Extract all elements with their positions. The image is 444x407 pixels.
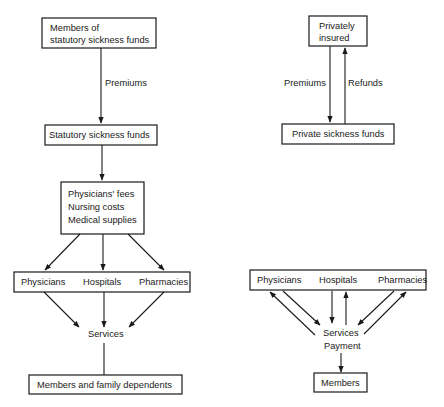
statutory-premiums-label: Premiums xyxy=(105,78,147,88)
pharmacies-to-services-arrow-private xyxy=(358,291,394,325)
privately-insured-line1: Privately xyxy=(319,21,355,31)
private-premiums-label: Premiums xyxy=(284,78,326,88)
statutory-funds-label: Statutory sickness funds xyxy=(49,130,150,140)
private-provider-hospitals: Hospitals xyxy=(319,275,358,285)
pharmacies-to-services-arrow xyxy=(129,292,164,327)
provider-physicians: Physicians xyxy=(21,277,66,287)
physicians-to-services-arrow xyxy=(44,292,79,327)
statutory-system: Members of statutory sickness funds Prem… xyxy=(14,18,190,394)
physicians-to-services-arrow-private xyxy=(283,291,320,325)
private-funds-label: Private sickness funds xyxy=(292,129,385,139)
costs-to-pharmacies-arrow xyxy=(128,234,164,270)
payment-label: Payment xyxy=(324,341,361,351)
statutory-members-line1: Members of xyxy=(50,23,99,33)
provider-pharmacies: Pharmacies xyxy=(139,277,188,287)
cost-nursing: Nursing costs xyxy=(68,202,125,212)
privately-insured-line2: insured xyxy=(319,33,350,43)
statutory-members-line2: statutory sickness funds xyxy=(50,35,150,45)
private-system: Privately insured Premiums Refunds Priva… xyxy=(250,16,427,392)
cost-physicians-fees: Physicians' fees xyxy=(68,189,135,199)
health-financing-diagram: Members of statutory sickness funds Prem… xyxy=(0,0,444,407)
beneficiaries-label: Members and family dependents xyxy=(37,380,172,390)
private-services-label: Services xyxy=(323,328,359,338)
cost-medical-supplies: Medical supplies xyxy=(68,215,137,225)
provider-hospitals: Hospitals xyxy=(83,277,122,287)
private-provider-physicians: Physicians xyxy=(257,275,302,285)
refunds-label: Refunds xyxy=(348,78,383,88)
costs-to-physicians-arrow xyxy=(45,234,80,270)
private-provider-pharmacies: Pharmacies xyxy=(378,275,427,285)
private-members-label: Members xyxy=(321,378,360,388)
statutory-services-label: Services xyxy=(88,329,124,339)
